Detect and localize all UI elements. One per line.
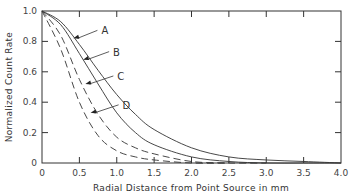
x-tick-label: 3.5 <box>296 168 310 178</box>
y-tick-label: 0.2 <box>23 128 37 138</box>
curve-c <box>42 11 266 163</box>
arrow-icon <box>73 35 79 39</box>
x-tick-label: 1.0 <box>110 168 125 178</box>
curve-annotations: ABCD <box>73 25 130 113</box>
x-tick-label: 2.0 <box>184 168 199 178</box>
x-tick-label: 0.5 <box>72 168 86 178</box>
curve-label-a: A <box>101 25 108 36</box>
plot-border <box>42 11 341 163</box>
y-axis-label: Normalized Count Rate <box>4 32 14 143</box>
y-tick-label: 1.0 <box>23 6 38 16</box>
x-axis-label: Radial Distance from Point Source in mm <box>93 183 289 193</box>
curve-label-d: D <box>123 100 131 111</box>
x-tick-label: 1.5 <box>147 168 161 178</box>
curve-label-b: B <box>113 47 120 58</box>
plot-frame <box>42 11 341 163</box>
curve-d <box>42 11 229 163</box>
y-tick-label: 0.4 <box>23 97 38 107</box>
y-tick-label: 0.8 <box>23 36 38 46</box>
x-tick-label: 2.5 <box>222 168 236 178</box>
data-curves <box>42 11 341 163</box>
x-tick-label: 3.0 <box>259 168 274 178</box>
x-tick-label: 4.0 <box>334 168 349 178</box>
chart: 00.51.01.52.02.53.03.54.000.20.40.60.81.… <box>0 0 352 196</box>
curve-a <box>42 11 341 163</box>
x-tick-label: 0 <box>39 168 45 178</box>
y-tick-label: 0.6 <box>23 67 38 77</box>
axis-ticks: 00.51.01.52.02.53.03.54.000.20.40.60.81.… <box>23 6 349 178</box>
y-tick-label: 0 <box>31 158 37 168</box>
arrow-icon <box>85 81 91 85</box>
curve-label-c: C <box>117 71 124 82</box>
curve-b <box>42 11 341 163</box>
